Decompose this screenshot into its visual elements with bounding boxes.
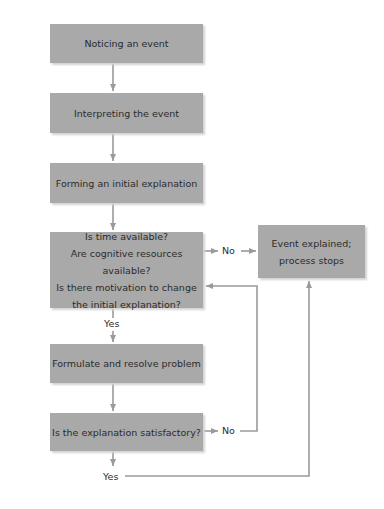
node-text: Noticing an event <box>84 35 168 52</box>
node-text: Event explained; <box>272 235 352 252</box>
edge-label-satisfactory-yes: Yes <box>103 471 118 483</box>
node-text: process stops <box>279 252 344 269</box>
node-text: Forming an initial explanation <box>56 175 197 192</box>
node-satisfactory-check: Is the explanation satisfactory? <box>50 413 203 451</box>
node-noticing-event: Noticing an event <box>50 24 203 63</box>
node-decision-resources: Is time available? Are cognitive resourc… <box>50 232 203 308</box>
node-text: Is the explanation satisfactory? <box>52 424 201 441</box>
node-formulate-problem: Formulate and resolve problem <box>50 344 203 383</box>
node-forming-explanation: Forming an initial explanation <box>50 163 203 203</box>
node-event-explained: Event explained; process stops <box>258 225 365 278</box>
node-text: Is time available? <box>85 228 168 245</box>
edge-label-satisfactory-no: No <box>222 425 235 437</box>
edge-label-decision-no: No <box>222 245 235 257</box>
node-text: the initial explanation? <box>72 296 181 313</box>
node-text: Interpreting the event <box>74 105 179 122</box>
node-interpreting-event: Interpreting the event <box>50 93 203 133</box>
edge-label-decision-yes: Yes <box>104 318 119 330</box>
node-text: Formulate and resolve problem <box>52 355 201 372</box>
node-text: Are cognitive resources available? <box>50 245 203 279</box>
node-text: Is there motivation to change <box>56 279 197 296</box>
